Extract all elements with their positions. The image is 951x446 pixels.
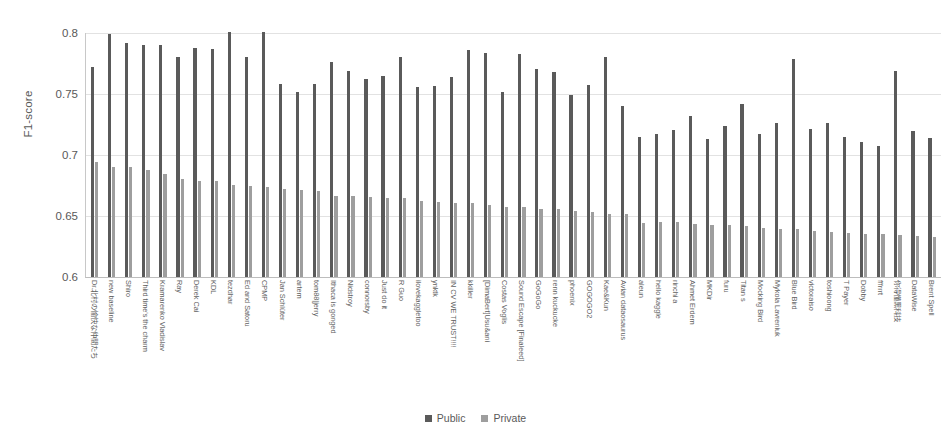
x-axis-tick-cell: kkiller — [461, 280, 478, 398]
bar-public — [125, 43, 128, 277]
bar-public — [193, 48, 196, 277]
bar-group — [137, 33, 154, 277]
x-axis-tick-label: furu — [722, 280, 730, 293]
bar-group — [804, 33, 821, 277]
x-axis-tick-label: T Payer — [842, 280, 850, 305]
bar-private — [864, 234, 867, 277]
bar-group — [907, 33, 924, 277]
x-axis-tick-label: Shiro — [124, 280, 132, 297]
bar-public — [621, 106, 624, 277]
bar-private — [232, 185, 235, 277]
x-axis-tick-label: rinchi a — [671, 280, 679, 303]
legend-item-private[interactable]: Private — [481, 412, 526, 424]
bar-group — [308, 33, 325, 277]
x-axis-tick-label: MKDir — [705, 280, 713, 300]
bar-public — [877, 146, 880, 277]
bar-public — [860, 142, 863, 277]
x-axis-tick-label: Jan Schlüter — [278, 280, 286, 320]
legend-item-public[interactable]: Public — [425, 412, 466, 424]
x-axis-tick-cell: Jan Schlüter — [273, 280, 290, 398]
bar-public — [587, 85, 590, 277]
x-axis-tick-cell: rinchi a — [666, 280, 683, 398]
bar-private — [557, 209, 560, 277]
bar-group — [838, 33, 855, 277]
bar-public — [262, 32, 265, 277]
x-axis-tick-cell: MKDir — [700, 280, 717, 398]
x-axis-tick-label: Dr.北村の愉快な仲間たち — [90, 280, 98, 359]
x-axis-tick-cell: Kae&Kun — [598, 280, 615, 398]
bar-public — [399, 57, 402, 277]
y-axis-title: F1-score — [22, 54, 34, 174]
bar-group — [325, 33, 342, 277]
bar-public — [740, 104, 743, 277]
x-axis-tick-label: toshioong — [825, 280, 833, 312]
x-axis-tick-cell: Ithaca is gonged — [324, 280, 341, 398]
bar-group — [496, 33, 513, 277]
x-axis-tick-label: kkiller — [466, 280, 474, 299]
bar-group — [189, 33, 206, 277]
x-axis-tick-cell: Third time's the charm — [136, 280, 153, 398]
bar-group — [599, 33, 616, 277]
bar-public — [159, 45, 162, 277]
bar-public — [108, 34, 111, 277]
x-axis-tick-cell: artem — [290, 280, 307, 398]
x-axis-tick-cell: IN CV WE TRUST!!!! — [444, 280, 461, 398]
x-axis-tick-label: KDL — [209, 280, 217, 294]
bar-public — [672, 130, 675, 277]
bar-public — [569, 95, 572, 277]
x-axis-tick-label: tezdhar — [226, 280, 234, 304]
bar-private — [522, 207, 525, 277]
x-axis-tick-label: Nidstroy — [346, 280, 354, 307]
bar-group — [616, 33, 633, 277]
x-axis-tick-label: Third time's the charm — [141, 280, 149, 352]
x-axis-tick-cell: Ahmet Erdem — [683, 280, 700, 398]
bar-public — [433, 86, 436, 277]
bar-private — [539, 209, 542, 277]
bar-private — [847, 233, 850, 277]
x-axis-tick-label: Brent Spell — [927, 280, 935, 316]
x-axis-tick-cell: Shiro — [119, 280, 136, 398]
bar-public — [364, 79, 367, 277]
x-axis-tick-cell: DataWise — [906, 280, 923, 398]
bar-group — [154, 33, 171, 277]
x-axis-tick-label: Costas Voglis — [500, 280, 508, 324]
x-axis-tick-label: Avian dataosaurus — [619, 280, 627, 340]
bar-private — [454, 203, 457, 277]
bar-public — [911, 131, 914, 277]
bar-group — [257, 33, 274, 277]
bar-public — [843, 137, 846, 277]
bar-public — [723, 126, 726, 277]
x-axis-tick-label: phoenix — [568, 280, 576, 306]
bar-public — [467, 50, 470, 277]
x-axis-tick-cell: renn kuckucke — [547, 280, 564, 398]
y-axis-tick: 0.75 — [34, 88, 78, 100]
x-axis-tick-cell: toshioong — [820, 280, 837, 398]
x-axis-tick-label: victoraiso — [807, 280, 815, 311]
x-axis-tick-cell: Nidstroy — [341, 280, 358, 398]
x-axis-tick-label: Just do it — [380, 280, 388, 309]
bar-private — [129, 167, 132, 277]
y-axis-tick-labels: 0.60.650.70.750.8 — [34, 0, 78, 446]
bar-private — [642, 223, 645, 277]
bar-private — [762, 228, 765, 277]
x-axis-tick-cell: GoGoGo — [529, 280, 546, 398]
bar-public — [211, 49, 214, 277]
bar-series-container — [86, 33, 941, 277]
bar-group — [855, 33, 872, 277]
bar-public — [176, 57, 179, 277]
bar-group — [548, 33, 565, 277]
x-axis-tick-cell: Mykola Lavreniuk — [769, 280, 786, 398]
bar-public — [638, 137, 641, 277]
bar-public — [330, 62, 333, 277]
bar-public — [450, 77, 453, 277]
bar-public — [347, 71, 350, 277]
bar-private — [95, 162, 98, 277]
x-axis-tick-label: GOGOGO2 — [585, 280, 593, 318]
bar-public — [655, 134, 658, 277]
y-axis-tick: 0.65 — [34, 210, 78, 222]
x-axis-tick-label: CPMP — [260, 280, 268, 301]
x-axis-tick-label: IN CV WE TRUST!!!! — [449, 280, 457, 348]
x-axis-tick-cell: Brent Spell — [923, 280, 940, 398]
bar-group — [821, 33, 838, 277]
bar-group — [718, 33, 735, 277]
